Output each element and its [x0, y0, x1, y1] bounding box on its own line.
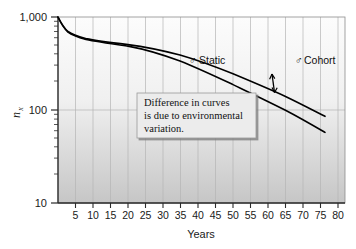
- xtick-label-70: 70: [297, 209, 309, 221]
- xtick-label-60: 60: [262, 209, 274, 221]
- x-major-ticks: [76, 203, 339, 208]
- y-axis-title-base: n: [9, 112, 23, 118]
- static-label-text: Static: [199, 54, 225, 66]
- ytick-label-100: 100: [29, 104, 47, 116]
- x-axis-title: Years: [187, 228, 215, 240]
- ytick-label-1000: 1,000: [19, 11, 47, 23]
- cohort-label-symbol: ♂: [295, 54, 303, 66]
- xtick-label-45: 45: [210, 209, 222, 221]
- cohort-label: ♂ Cohort: [295, 54, 336, 66]
- xtick-label-65: 65: [280, 209, 292, 221]
- note-line-3: variation.: [144, 123, 184, 134]
- note-line-2: is due to environmental: [144, 110, 243, 121]
- xtick-label-15: 15: [105, 209, 117, 221]
- xtick-label-55: 55: [245, 209, 257, 221]
- xtick-label-80: 80: [332, 209, 344, 221]
- note-box: Difference in curves is due to environme…: [137, 93, 256, 138]
- cohort-label-text: Cohort: [304, 54, 336, 66]
- static-label: ♂ Static: [189, 54, 225, 66]
- xtick-label-75: 75: [315, 209, 327, 221]
- chart-svg: 1,000 100 10 5 10 15 20 25 30 35 40 45 5…: [0, 0, 356, 249]
- y-axis-title-subscript: x: [16, 107, 25, 112]
- xtick-label-50: 50: [227, 209, 239, 221]
- note-line-1: Difference in curves: [144, 97, 230, 108]
- y-axis-title: n x: [9, 107, 25, 118]
- static-label-symbol: ♂: [189, 54, 197, 66]
- xtick-label-40: 40: [192, 209, 204, 221]
- ytick-label-10: 10: [35, 197, 47, 209]
- xtick-label-35: 35: [175, 209, 187, 221]
- xtick-label-5: 5: [73, 209, 79, 221]
- xtick-label-30: 30: [157, 209, 169, 221]
- xtick-label-20: 20: [122, 209, 134, 221]
- xtick-label-25: 25: [140, 209, 152, 221]
- xtick-label-10: 10: [87, 209, 99, 221]
- survivorship-curve-figure: 1,000 100 10 5 10 15 20 25 30 35 40 45 5…: [0, 0, 356, 249]
